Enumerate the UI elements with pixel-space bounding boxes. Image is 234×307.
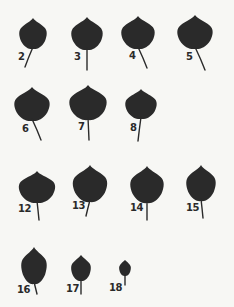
leaf-petiole (86, 200, 90, 216)
leaf-petiole (88, 118, 89, 140)
leaf-blade (186, 165, 215, 201)
leaf-7 (69, 85, 106, 140)
leaf-number-label: 18 (109, 283, 122, 293)
leaf-petiole (138, 47, 147, 68)
leaf-blade (14, 87, 49, 121)
leaf-4 (121, 16, 154, 68)
leaf-number-label: 4 (129, 51, 135, 61)
leaf-blade (125, 89, 156, 119)
leaf-petiole (138, 117, 141, 141)
leaf-blade (130, 166, 163, 203)
leaf-blade (71, 255, 91, 281)
leaf-petiole (201, 199, 203, 218)
leaf-number-label: 3 (74, 52, 80, 62)
leaf-blade (121, 16, 154, 49)
leaf-plate (0, 0, 234, 307)
leaf-number-label: 17 (66, 284, 79, 294)
leaf-blade (19, 18, 47, 49)
leaf-3 (71, 17, 102, 70)
leaf-5 (177, 15, 212, 70)
leaf-blade (177, 15, 212, 49)
leaf-number-label: 7 (78, 122, 84, 132)
leaf-number-label: 2 (18, 52, 24, 62)
leaf-blade (19, 171, 55, 203)
leaf-petiole (25, 47, 33, 67)
leaf-blade (69, 85, 106, 120)
leaf-8 (125, 89, 156, 141)
leaf-number-label: 12 (18, 204, 31, 214)
leaf-blade (73, 165, 107, 202)
leaf-blade (21, 247, 47, 284)
leaf-number-label: 14 (130, 203, 143, 213)
leaf-number-label: 5 (186, 52, 192, 62)
leaf-6 (14, 87, 49, 140)
leaf-petiole (32, 119, 41, 140)
leaf-petiole (37, 201, 39, 220)
leaf-blade (71, 17, 102, 50)
leaf-number-label: 6 (22, 124, 28, 134)
leaf-number-label: 13 (72, 201, 85, 211)
leaf-petiole (195, 47, 205, 70)
leaf-number-label: 8 (130, 123, 136, 133)
leaf-number-label: 15 (186, 203, 199, 213)
leaf-number-label: 16 (17, 285, 30, 295)
